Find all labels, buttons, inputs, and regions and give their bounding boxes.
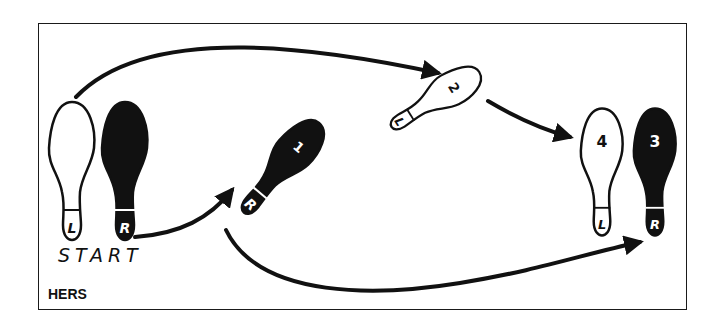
start-label: START: [58, 244, 143, 266]
arrow-step-2-to-step-4: [488, 101, 570, 137]
footprint-label: 3: [650, 132, 661, 151]
footprint-step-4: 4 L: [581, 108, 623, 235]
footprint-start-right: R: [102, 102, 147, 240]
footprint-step-3: 3 R: [634, 108, 676, 235]
footprint-label: R: [120, 220, 131, 236]
arrow-start-to-step-1: [135, 190, 232, 237]
dance-step-diagram: L R 1 R 2 L 4 L: [0, 0, 726, 331]
footprints-and-arrows: L R 1 R 2 L 4 L: [0, 0, 726, 331]
arrow-start-to-step-2: [76, 47, 438, 97]
footprint-start-left: L: [49, 102, 94, 240]
arrow-step-1-to-step-3: [226, 230, 640, 291]
footprint-label: L: [68, 220, 77, 236]
step-arrows: [76, 47, 640, 290]
footprint-label: R: [650, 217, 660, 232]
footprint-step-1: 1 R: [229, 110, 334, 225]
diagram-title: HERS: [48, 286, 87, 302]
footprint-step-2: 2 L: [382, 57, 488, 141]
footprint-label: 4: [597, 132, 608, 151]
footprint-label: L: [598, 217, 606, 232]
